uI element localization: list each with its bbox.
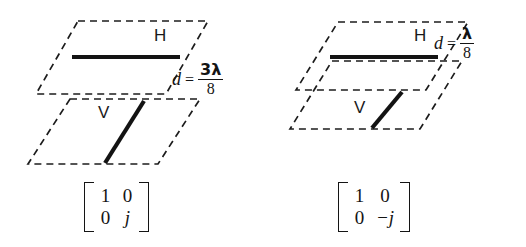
distance-annotation-left: d = 3λ 8 xyxy=(172,62,223,97)
lower-plane-outline-left xyxy=(28,99,200,164)
matrix-grid-left: 1 0 0 j xyxy=(94,182,139,232)
jones-matrix-left: 1 0 0 j xyxy=(84,182,149,232)
matrix-close-bracket-left xyxy=(139,182,149,232)
matrix-cell-r0c0: 1 xyxy=(100,185,111,207)
distance-equals-right: = xyxy=(445,35,460,53)
matrix-open-bracket-left xyxy=(84,182,94,232)
matrix-cell-r1c0: 0 xyxy=(354,207,365,229)
diagram-panel-left: H V d = 3λ 8 1 0 0 j xyxy=(0,0,300,247)
distance-fraction-right: λ 8 xyxy=(460,26,474,61)
distance-denominator-right: 8 xyxy=(460,43,474,61)
polarizer-plane-figure: H V d = 3λ 8 1 0 0 j xyxy=(0,0,526,247)
distance-annotation-right: d = λ 8 xyxy=(434,26,474,61)
v-grid-bar-right xyxy=(372,92,402,128)
plane-label-h-left: H xyxy=(154,27,166,44)
distance-equals-left: = xyxy=(183,71,198,89)
distance-fraction-left: 3λ 8 xyxy=(198,62,223,97)
matrix-cell-r0c1: 0 xyxy=(376,185,394,207)
matrix-open-bracket-right xyxy=(338,182,348,232)
distance-numerator-right: λ xyxy=(460,26,474,43)
matrix-grid-right: 1 0 0 −j xyxy=(348,182,400,232)
matrix-cell-r1c0: 0 xyxy=(100,207,111,229)
distance-numerator-left: 3λ xyxy=(198,62,223,79)
matrix-close-bracket-right xyxy=(400,182,410,232)
matrix-cell-r1c1: −j xyxy=(376,207,394,229)
matrix-cell-r0c0: 1 xyxy=(354,185,365,207)
left-panel-geometry xyxy=(0,0,300,247)
jones-matrix-right: 1 0 0 −j xyxy=(338,182,410,232)
matrix-cell-r1c1: j xyxy=(122,207,133,229)
diagram-panel-right: H V d = λ 8 1 0 0 −j xyxy=(290,0,526,247)
distance-variable-right: d xyxy=(434,33,445,54)
lower-plane-outline-right xyxy=(290,61,462,129)
plane-label-h-right: H xyxy=(414,27,426,44)
matrix-cell-r0c1: 0 xyxy=(122,185,133,207)
plane-label-v-left: V xyxy=(98,104,109,121)
v-grid-bar-left xyxy=(105,101,144,163)
distance-denominator-left: 8 xyxy=(198,79,223,97)
plane-label-v-right: V xyxy=(354,99,365,116)
distance-variable-left: d xyxy=(172,69,183,90)
